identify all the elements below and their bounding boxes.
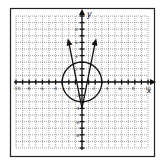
coordinate-graph: -10-8-6-4-22468108642-2-4-6-8 y x [0, 0, 162, 165]
svg-text:-8: -8 [26, 86, 31, 91]
svg-text:-6: -6 [39, 86, 44, 91]
svg-text:2: 2 [92, 86, 95, 91]
svg-text:8: 8 [75, 27, 78, 32]
svg-text:-4: -4 [75, 106, 80, 111]
y-axis-label: y [86, 10, 92, 19]
svg-text:6: 6 [75, 40, 78, 45]
svg-text:-8: -8 [75, 133, 80, 138]
svg-text:-10: -10 [13, 86, 20, 91]
svg-text:8: 8 [132, 86, 135, 91]
svg-text:4: 4 [105, 86, 108, 91]
svg-text:-6: -6 [75, 120, 80, 125]
svg-text:4: 4 [75, 54, 78, 59]
x-axis-label: x [146, 87, 152, 95]
svg-text:2: 2 [75, 67, 78, 72]
svg-text:-4: -4 [53, 86, 58, 91]
svg-text:-2: -2 [66, 86, 71, 91]
svg-text:6: 6 [119, 86, 122, 91]
